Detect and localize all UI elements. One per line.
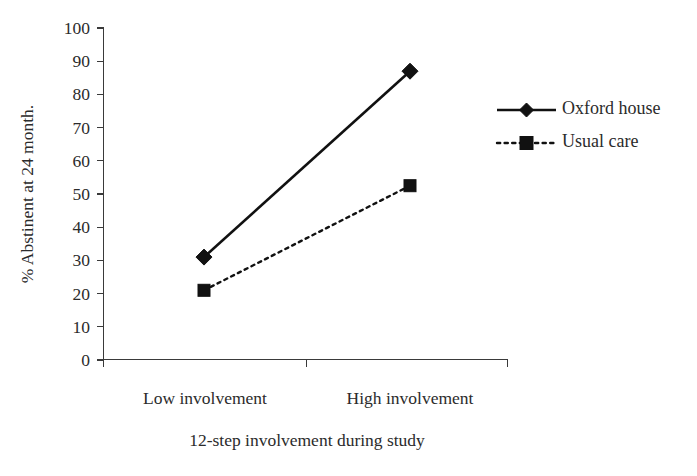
usual-care-point-low bbox=[198, 284, 210, 296]
series-usual-care bbox=[198, 180, 416, 297]
y-tick-label-0: 0 bbox=[81, 350, 90, 370]
x-category-label-high: High involvement bbox=[347, 388, 474, 408]
legend-label-usual-care: Usual care bbox=[562, 131, 638, 151]
x-axis-ticks bbox=[104, 360, 508, 367]
y-tick-label-90: 90 bbox=[73, 51, 91, 71]
legend-diamond-marker-icon bbox=[520, 103, 534, 117]
y-axis-title: % Abstinent at 24 month. bbox=[17, 105, 37, 283]
legend-square-marker-icon bbox=[520, 137, 533, 150]
legend-entry-oxford-house[interactable]: Oxford house bbox=[497, 98, 660, 118]
y-tick-label-20: 20 bbox=[73, 284, 91, 304]
x-axis-title: 12-step involvement during study bbox=[189, 430, 425, 450]
y-tick-label-50: 50 bbox=[73, 184, 91, 204]
usual-care-point-high bbox=[404, 180, 416, 192]
y-tick-label-80: 80 bbox=[73, 84, 91, 104]
x-category-label-low: Low involvement bbox=[143, 388, 267, 408]
y-axis-ticks: 100 90 80 70 60 50 40 30 20 10 0 bbox=[64, 18, 104, 370]
y-tick-label-40: 40 bbox=[73, 217, 91, 237]
usual-care-line bbox=[204, 186, 410, 291]
chart-figure: % Abstinent at 24 month. 100 90 80 70 60… bbox=[0, 0, 697, 476]
series-oxford-house bbox=[196, 63, 418, 265]
y-tick-label-70: 70 bbox=[73, 118, 91, 138]
y-tick-label-60: 60 bbox=[73, 151, 91, 171]
y-tick-label-100: 100 bbox=[64, 18, 91, 38]
y-tick-label-30: 30 bbox=[73, 250, 91, 270]
line-chart: % Abstinent at 24 month. 100 90 80 70 60… bbox=[0, 0, 697, 476]
chart-legend: Oxford house Usual care bbox=[497, 98, 660, 151]
oxford-house-line bbox=[204, 71, 410, 257]
legend-entry-usual-care[interactable]: Usual care bbox=[497, 131, 638, 151]
legend-label-oxford-house: Oxford house bbox=[562, 98, 660, 118]
y-tick-label-10: 10 bbox=[73, 317, 91, 337]
